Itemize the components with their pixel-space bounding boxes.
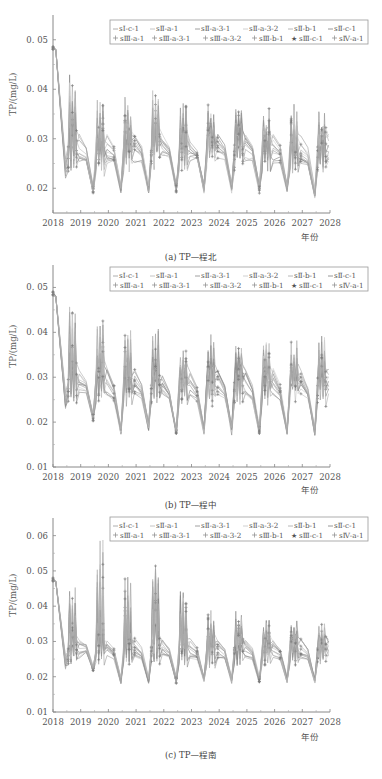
x-tick-label: 2020 <box>98 472 120 482</box>
legend-label: sⅣ-a-1 <box>339 531 364 540</box>
series-marker <box>241 400 244 403</box>
legend-label: sⅠ-c-1 <box>119 271 139 280</box>
legend-label: sⅠ-c-1 <box>119 521 139 530</box>
x-axis-label: 年份 <box>301 732 319 742</box>
series-marker <box>268 352 271 355</box>
series-marker <box>290 341 293 344</box>
series-marker <box>211 661 214 664</box>
x-tick-label: 2028 <box>319 472 341 482</box>
series-marker <box>97 399 100 402</box>
series-marker <box>112 145 115 148</box>
panel-b: 0. 010. 020. 030. 040. 05201820192020202… <box>8 265 368 510</box>
series-marker <box>207 613 210 616</box>
series-marker <box>71 84 74 87</box>
legend-label: sⅡ-a-3-2 <box>249 24 278 33</box>
series-marker <box>241 162 244 165</box>
series-marker <box>101 576 104 579</box>
x-tick-label: 2022 <box>153 218 175 228</box>
x-tick-label: 2026 <box>264 717 286 727</box>
series-marker <box>294 663 297 666</box>
y-tick-label: 0. 04 <box>26 327 48 337</box>
series-marker <box>324 405 327 408</box>
series-marker <box>128 663 131 666</box>
legend-label: sⅡ-c-1 <box>334 271 356 280</box>
series-marker <box>241 154 244 157</box>
panel-caption: (a) TP—程北 <box>165 252 217 262</box>
legend-label: sⅡ-b-1 <box>294 521 317 530</box>
legend: sⅠ-c-1sⅡ-a-1sⅡ-a-3-1sⅡ-a-3-2sⅡ-b-1sⅡ-c-1… <box>110 20 368 44</box>
series-marker <box>154 348 157 351</box>
legend-label: sⅡ-a-1 <box>156 24 178 33</box>
series-marker <box>237 347 240 350</box>
series-marker <box>71 597 74 600</box>
series-marker <box>268 624 271 627</box>
series-marker <box>184 610 187 613</box>
legend-label: sⅡ-c-1 <box>334 521 356 530</box>
y-tick-label: 0. 03 <box>26 636 48 646</box>
x-tick-label: 2022 <box>153 472 175 482</box>
series-marker <box>290 121 293 124</box>
x-tick-label: 2023 <box>181 218 203 228</box>
series-marker <box>324 660 327 663</box>
x-tick-label: 2020 <box>98 717 120 727</box>
series-marker <box>211 399 214 402</box>
y-tick-label: 0. 05 <box>26 35 48 45</box>
series-marker <box>154 601 157 604</box>
series-marker <box>101 319 104 322</box>
x-tick-label: 2018 <box>42 218 64 228</box>
y-axis-label: TP/(mg/L) <box>8 574 18 617</box>
figure: 0. 020. 030. 040. 0520182019202020212022… <box>0 0 382 779</box>
x-tick-label: 2020 <box>98 218 120 228</box>
series-marker <box>237 620 240 623</box>
x-tick-label: 2019 <box>70 472 92 482</box>
series-marker <box>294 400 297 403</box>
y-axis-label: TP/(mg/L) <box>8 325 18 368</box>
series-marker <box>158 663 161 666</box>
series-marker <box>211 155 214 158</box>
legend-label: sⅠ-c-1 <box>119 24 139 33</box>
series-marker <box>258 192 261 195</box>
legend-label: sⅢ-b-1 <box>259 281 284 290</box>
x-tick-label: 2021 <box>125 472 147 482</box>
y-tick-label: 0. 01 <box>26 707 48 717</box>
series-marker <box>75 166 78 169</box>
legend-label: sⅢ-c-1 <box>299 281 323 290</box>
series-marker <box>268 356 271 359</box>
series-marker <box>263 659 266 662</box>
legend-label: sⅢ-c-1 <box>299 531 323 540</box>
x-tick-label: 2019 <box>70 218 92 228</box>
panel-c: 0. 010. 020. 030. 040. 050. 062018201920… <box>8 517 368 760</box>
x-tick-label: 2026 <box>264 472 286 482</box>
legend-label: sⅢ-b-1 <box>259 531 284 540</box>
legend-label: sⅢ-a-3-1 <box>159 281 190 290</box>
legend-label: sⅡ-a-1 <box>156 271 178 280</box>
legend-label: sⅢ-a-3-1 <box>159 34 190 43</box>
series-marker <box>180 169 183 172</box>
series-marker <box>75 401 78 404</box>
legend-label: sⅢ-b-1 <box>259 34 284 43</box>
x-tick-label: 2018 <box>42 717 64 727</box>
x-tick-label: 2025 <box>236 472 258 482</box>
series-marker <box>263 389 266 392</box>
legend: sⅠ-c-1sⅡ-a-1sⅡ-a-3-1sⅡ-a-3-2sⅡ-b-1sⅡ-c-1… <box>110 267 368 291</box>
x-tick-label: 2021 <box>125 717 147 727</box>
y-tick-label: 0. 05 <box>26 566 48 576</box>
series-marker <box>290 630 293 633</box>
x-tick-label: 2024 <box>208 218 230 228</box>
legend-label: sⅢ-a-3-2 <box>210 531 241 540</box>
x-tick-label: 2027 <box>291 717 313 727</box>
y-tick-label: 0. 02 <box>26 417 48 427</box>
legend-label: sⅢ-a-3-1 <box>159 531 190 540</box>
x-tick-label: 2021 <box>125 218 147 228</box>
legend-label: sⅣ-a-1 <box>339 281 364 290</box>
series-marker <box>263 160 266 163</box>
series-marker <box>124 577 127 580</box>
legend-label: sⅡ-a-3-2 <box>249 271 278 280</box>
legend-label: sⅡ-a-3-1 <box>201 521 230 530</box>
y-tick-label: 0. 04 <box>26 84 48 94</box>
legend-label: sⅢ-a-1 <box>120 34 144 43</box>
x-tick-label: 2022 <box>153 717 175 727</box>
series-line-sⅢ-b-1 <box>53 292 329 435</box>
series-marker <box>268 119 271 122</box>
y-tick-label: 0. 04 <box>26 601 48 611</box>
